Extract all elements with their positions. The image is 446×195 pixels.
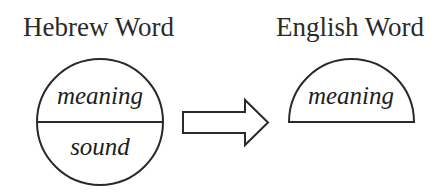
english-word-title: English Word — [276, 12, 425, 42]
hebrew-english-word-diagram: Hebrew Word meaning sound English Word m… — [0, 0, 446, 195]
hebrew-word-title: Hebrew Word — [23, 12, 175, 42]
english-word-group: English Word meaning — [276, 12, 425, 122]
english-meaning-label: meaning — [308, 82, 394, 109]
hebrew-sound-label: sound — [70, 133, 130, 160]
hebrew-word-group: Hebrew Word meaning sound — [23, 12, 175, 185]
hebrew-meaning-label: meaning — [57, 82, 143, 109]
right-arrow-icon — [183, 100, 268, 145]
